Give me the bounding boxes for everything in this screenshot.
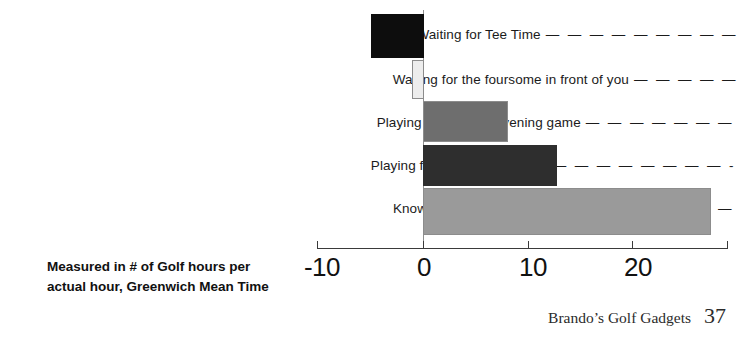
bar-weekday-evening-game (423, 101, 508, 142)
chart-page: Waiting for Tee Time — — — — — — — — — W… (0, 0, 740, 337)
x-axis-tick (528, 241, 529, 249)
bar-category-label: Playing a weekday evening game — — — — —… (316, 100, 740, 144)
chart-row: Playing for the big money — — — — — — — … (0, 143, 740, 187)
bar-playing-for-big-money (423, 145, 557, 186)
footer: Brando’s Golf Gadgets 37 (548, 303, 726, 329)
x-axis-tick-label: 20 (624, 252, 652, 283)
bar-category-text: Waiting for the foursome in front of you (393, 72, 629, 87)
x-axis-caption: Measured in # of Golf hours per actual h… (47, 257, 297, 296)
x-axis-tick (632, 241, 633, 249)
leader-dashes: — — — — — — — (586, 115, 734, 130)
chart-row: Playing a weekday evening game — — — — —… (0, 100, 740, 144)
bar-waiting-for-foursome (412, 60, 424, 99)
chart-row: Waiting for Tee Time — — — — — — — — — (0, 12, 740, 56)
footer-source-text: Brando’s Golf Gadgets (548, 309, 691, 327)
x-axis-tick (317, 241, 318, 249)
bar-category-text: Waiting for Tee Time (416, 27, 540, 42)
bar-waiting-for-tee-time (371, 14, 424, 58)
x-axis-tick-label: 10 (519, 252, 547, 283)
leader-dashes: — — — — — — — — — (546, 27, 738, 42)
bar-category-label: Waiting for the foursome in front of you… (326, 57, 740, 101)
x-axis-line (317, 248, 728, 249)
x-axis-tick (423, 241, 424, 249)
leader-dashes: — — — — — (634, 72, 738, 87)
leader-dashes: — — — — — — — — — - (531, 158, 736, 173)
caption-line-2: actual hour, Greenwich Mean Time (47, 277, 297, 297)
footer-page-number: 37 (704, 303, 726, 329)
chart-row: Knowing you're supposed to be home by no… (0, 186, 740, 230)
chart-row: Waiting for the foursome in front of you… (0, 57, 740, 101)
x-axis-tick-label: 0 (417, 252, 431, 283)
x-axis-tick-end (727, 241, 728, 249)
bar-supposed-to-be-home (423, 188, 711, 235)
bar-chart-plot-area: Waiting for Tee Time — — — — — — — — — W… (0, 0, 740, 260)
x-axis-tick-label: -10 (304, 252, 340, 283)
caption-line-1: Measured in # of Golf hours per (47, 257, 297, 277)
